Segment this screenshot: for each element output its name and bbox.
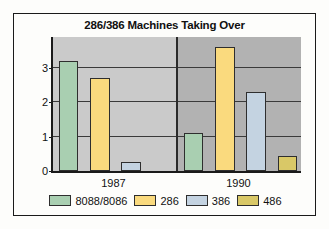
bar-1990-8088-8086	[184, 133, 203, 171]
x-axis-label-1987: 1987	[51, 177, 176, 189]
y-tick-label-2: 2	[42, 96, 48, 108]
y-tick-label-0: 0	[42, 165, 48, 177]
plot-area: 0123	[51, 37, 301, 173]
legend-item-286[interactable]: 286	[134, 195, 178, 207]
bar-1990-286	[215, 47, 234, 171]
y-tick-mark-0	[49, 171, 53, 172]
x-axis-label-1990: 1990	[176, 177, 301, 189]
legend-swatch-286	[134, 195, 156, 206]
bar-1987-386	[121, 162, 140, 171]
bar-1987-286	[90, 78, 109, 171]
y-tick-label-3: 3	[42, 62, 48, 74]
legend-label-286: 286	[160, 195, 178, 207]
legend-label-8088-8086: 8088/8086	[75, 195, 127, 207]
legend-item-8088-8086[interactable]: 8088/8086	[49, 195, 127, 207]
y-tick-label-1: 1	[42, 131, 48, 143]
chart-title: 286/386 Machines Taking Over	[14, 19, 315, 31]
legend-swatch-386	[186, 195, 208, 206]
bar-1990-486	[278, 156, 297, 171]
legend-label-386: 386	[212, 195, 230, 207]
bar-1990-386	[246, 92, 265, 171]
legend-item-486[interactable]: 486	[237, 195, 281, 207]
legend-swatch-486	[237, 195, 259, 206]
legend-label-486: 486	[263, 195, 281, 207]
legend-swatch-8088-8086	[49, 195, 71, 206]
chart-figure: 286/386 Machines Taking Over 0123 198719…	[13, 13, 316, 216]
chart-legend: 8088/8086286386486	[34, 192, 297, 209]
bar-1987-8088-8086	[59, 61, 78, 171]
legend-item-386[interactable]: 386	[186, 195, 230, 207]
bar-group-1990	[178, 37, 303, 171]
bar-group-1987	[53, 37, 178, 171]
